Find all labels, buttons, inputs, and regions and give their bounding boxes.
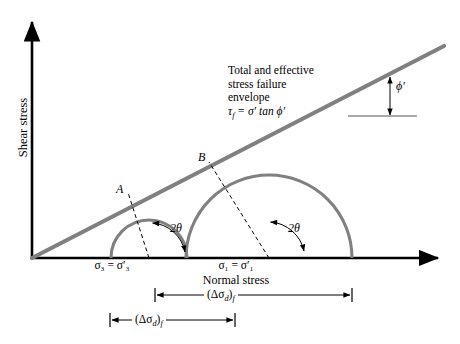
- mohr-circle-figure: Shear stress Total and effective stress …: [0, 0, 460, 344]
- dim1-prefix: (Δσ: [207, 288, 224, 300]
- annotation-line-1: Total and effective: [228, 64, 314, 78]
- sigma3-label: σ₃ = σ′₃: [62, 259, 162, 271]
- dim2-sub2: f: [160, 319, 162, 328]
- dim2-prefix: (Δσ: [135, 313, 152, 325]
- dimension-label-small: (Δσd)f: [132, 313, 166, 328]
- annotation-equation: τf = σ′ tan ϕ′: [228, 105, 314, 123]
- sigma1-label: σ₁ = σ′₁: [186, 259, 286, 271]
- angle-label-small: 2θ: [170, 221, 182, 236]
- point-label-a: A: [116, 182, 123, 197]
- dim1-sub2: f: [232, 294, 234, 303]
- phi-angle-label: ϕ′: [396, 79, 405, 94]
- annotation-line-3: envelope: [228, 91, 314, 105]
- large-mohr-circle: [186, 175, 352, 258]
- point-label-b: B: [198, 150, 205, 165]
- envelope-annotation: Total and effective stress failure envel…: [228, 64, 314, 122]
- dimension-label-large: (Δσd)f: [204, 288, 238, 303]
- x-axis-label: Normal stress: [186, 273, 286, 288]
- y-axis-label: Shear stress: [16, 83, 31, 173]
- annotation-line-2: stress failure: [228, 78, 314, 92]
- equation-remainder: = σ′ tan ϕ′: [234, 105, 285, 117]
- angle-label-large: 2θ: [288, 221, 300, 236]
